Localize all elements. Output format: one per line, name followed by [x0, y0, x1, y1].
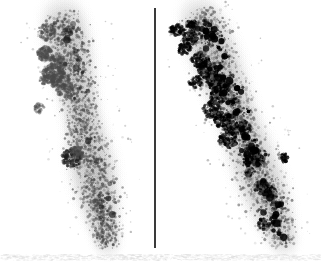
tissue-section-left-canvas [0, 0, 155, 262]
tissue-section-right-canvas [157, 0, 321, 262]
panel-divider-line [154, 8, 156, 248]
microscopy-figure: Autoradiographic in situ hybridization c… [0, 0, 321, 262]
tissue-panel-left [0, 0, 155, 262]
tissue-panel-right [157, 0, 321, 262]
